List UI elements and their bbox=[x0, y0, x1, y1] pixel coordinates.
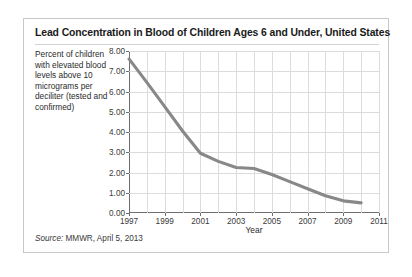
x-axis-title: Year bbox=[129, 225, 379, 235]
x-tick-mark bbox=[236, 213, 237, 216]
y-tick-label: 6.00 bbox=[109, 87, 125, 96]
x-tick-mark bbox=[343, 213, 344, 216]
y-tick-label: 5.00 bbox=[109, 107, 125, 116]
y-tick-label: 4.00 bbox=[109, 128, 125, 137]
x-tick-mark bbox=[129, 213, 130, 216]
y-tick-label: 2.00 bbox=[109, 168, 125, 177]
chart-figure: Lead Concentration in Blood of Children … bbox=[23, 18, 389, 253]
source-note: Source: MMWR, April 5, 2013 bbox=[35, 234, 143, 243]
data-line-series bbox=[129, 51, 379, 213]
source-label: Source: bbox=[35, 234, 63, 243]
x-tick-mark bbox=[379, 213, 380, 216]
y-tick-label: 8.00 bbox=[109, 47, 125, 56]
gridline-vertical bbox=[379, 51, 380, 213]
x-tick-mark bbox=[165, 213, 166, 216]
y-tick-label: 3.00 bbox=[109, 148, 125, 157]
x-tick-mark bbox=[272, 213, 273, 216]
plot-wrapper: 0.001.002.003.004.005.006.007.008.00 199… bbox=[24, 19, 390, 254]
x-tick-mark bbox=[308, 213, 309, 216]
y-tick-label: 7.00 bbox=[109, 67, 125, 76]
x-tick-mark bbox=[200, 213, 201, 216]
source-text: MMWR, April 5, 2013 bbox=[63, 234, 143, 243]
y-tick-label: 1.00 bbox=[109, 188, 125, 197]
